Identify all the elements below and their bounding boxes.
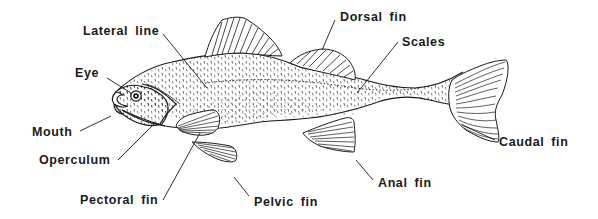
fish-anatomy-diagram: Lateral line Eye Mouth Operculum Pectora… — [0, 0, 598, 219]
caudal-fin — [449, 60, 508, 142]
label-eye: Eye — [75, 67, 99, 80]
leader-pectoral-fin — [163, 133, 200, 200]
label-operculum: Operculum — [39, 154, 110, 167]
label-pectoral-fin: Pectoral fin — [80, 194, 158, 207]
leader-dorsal-fin — [322, 20, 335, 50]
pelvic-fin — [192, 142, 237, 162]
label-anal-fin: Anal fin — [378, 177, 432, 190]
label-pelvic-fin: Pelvic fin — [254, 196, 318, 209]
leader-pelvic-fin — [234, 177, 249, 196]
label-dorsal-fin: Dorsal fin — [340, 11, 407, 24]
leader-mouth — [80, 116, 111, 131]
label-caudal-fin: Caudal fin — [499, 136, 568, 149]
first-dorsal-fin — [205, 17, 282, 57]
label-lateral-line: Lateral line — [83, 25, 159, 38]
label-mouth: Mouth — [32, 126, 72, 139]
leader-anal-fin — [356, 160, 373, 180]
leader-operculum — [118, 123, 155, 160]
anal-fin — [303, 118, 355, 152]
label-scales: Scales — [402, 36, 445, 49]
